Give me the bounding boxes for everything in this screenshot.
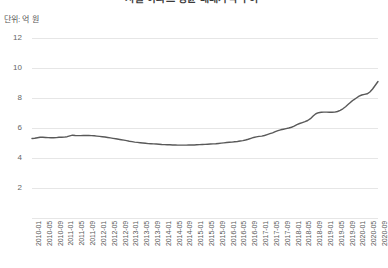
y-tick-label: 8	[2, 94, 22, 102]
x-tick-label: 2015-09	[219, 221, 226, 246]
series-line	[32, 38, 378, 218]
x-tick-label: 2016-09	[251, 221, 258, 246]
x-tick-label: 2013-01	[132, 221, 139, 246]
y-tick-label: 6	[2, 124, 22, 132]
x-tick-label: 2015-05	[208, 221, 215, 246]
x-tick-label: 2017-09	[284, 221, 291, 246]
x-tick-label: 2014-01	[165, 221, 172, 246]
x-tick-label: 2011-01	[67, 221, 74, 245]
x-tick-label: 2010-09	[57, 221, 64, 246]
x-tick-label: 2010-05	[46, 221, 53, 246]
x-tick-label: 2016-01	[230, 221, 237, 246]
x-tick-label: 2013-09	[154, 221, 161, 246]
x-tick-label: 2018-09	[316, 221, 323, 246]
x-tick-label: 2012-01	[100, 221, 107, 246]
x-tick-label: 2015-01	[197, 221, 204, 246]
x-axis: 2010-012010-052010-092011-012011-052011-…	[32, 218, 378, 268]
x-tick-label: 2012-09	[122, 221, 129, 246]
y-tick-label: 12	[2, 34, 22, 42]
x-tick-label: 2018-01	[295, 221, 302, 246]
x-tick-label: 2013-05	[143, 221, 150, 246]
y-tick-label: 4	[2, 154, 22, 162]
unit-label: 단위: 억 원	[4, 14, 39, 25]
x-tick-label: 2020-09	[381, 221, 388, 246]
x-tick-label: 2016-05	[240, 221, 247, 246]
plot-area	[32, 38, 378, 218]
x-tick-label: 2020-01	[359, 221, 366, 246]
x-tick-label: 2019-01	[327, 221, 334, 246]
x-tick-label: 2014-09	[186, 221, 193, 246]
x-tick-label: 2012-05	[111, 221, 118, 246]
x-tick-label: 2017-01	[262, 221, 269, 246]
x-tick-label: 2014-05	[176, 221, 183, 246]
y-tick-label: 2	[2, 184, 22, 192]
y-tick-label: 10	[2, 64, 22, 72]
x-tick-label: 2017-05	[273, 221, 280, 246]
x-tick-label: 2011-09	[89, 221, 96, 245]
x-tick-label: 2011-05	[78, 221, 85, 245]
x-tick-label: 2019-05	[338, 221, 345, 246]
chart-title: 서울 아파트 평균 매매가격 추이	[0, 0, 384, 4]
x-tick-label: 2010-01	[35, 221, 42, 246]
x-tick-label: 2020-05	[370, 221, 377, 246]
x-tick-label: 2019-09	[349, 221, 356, 246]
x-tick-label: 2018-05	[305, 221, 312, 246]
